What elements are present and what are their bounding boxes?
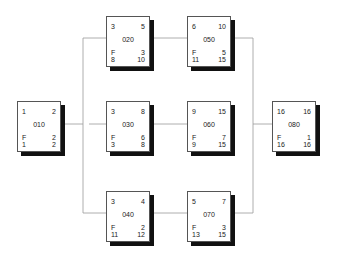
late-finish: 12 xyxy=(137,231,145,239)
node-060: 9 15 060 F 7 9 15 xyxy=(187,101,231,152)
activity-id: 050 xyxy=(188,36,230,44)
early-finish: 4 xyxy=(141,198,145,206)
activity-id: 010 xyxy=(18,121,60,129)
node-010: 1 2 010 F 2 1 2 xyxy=(17,101,61,152)
node-030: 3 8 030 F 6 3 8 xyxy=(106,101,150,152)
late-finish: 2 xyxy=(52,141,56,149)
node-080: 16 16 080 F 1 16 16 xyxy=(272,101,316,152)
network-diagram: 1 2 010 F 2 1 2 3 5 020 F 3 8 10 3 8 030… xyxy=(0,0,338,260)
early-finish: 15 xyxy=(218,108,226,116)
late-finish: 15 xyxy=(218,141,226,149)
late-start: 9 xyxy=(192,141,196,149)
early-finish: 10 xyxy=(218,23,226,31)
activity-id: 040 xyxy=(107,211,149,219)
late-start: 11 xyxy=(111,231,118,239)
late-finish: 10 xyxy=(137,56,145,64)
late-finish: 15 xyxy=(218,231,226,239)
late-start: 16 xyxy=(277,141,285,149)
late-start: 3 xyxy=(111,141,115,149)
activity-id: 060 xyxy=(188,121,230,129)
activity-id: 030 xyxy=(107,121,149,129)
early-finish: 5 xyxy=(141,23,145,31)
early-finish: 8 xyxy=(141,108,145,116)
activity-id: 020 xyxy=(107,36,149,44)
early-finish: 16 xyxy=(303,108,311,116)
early-start: 16 xyxy=(277,108,285,116)
early-finish: 7 xyxy=(222,198,226,206)
early-start: 6 xyxy=(192,23,196,31)
early-start: 5 xyxy=(192,198,196,206)
activity-id: 080 xyxy=(273,121,315,129)
early-start: 1 xyxy=(22,108,26,116)
node-050: 6 10 050 F 5 11 15 xyxy=(187,16,231,67)
node-040: 3 4 040 F 2 11 12 xyxy=(106,191,150,242)
activity-id: 070 xyxy=(188,211,230,219)
late-finish: 16 xyxy=(303,141,311,149)
early-finish: 2 xyxy=(52,108,56,116)
late-start: 8 xyxy=(111,56,115,64)
node-020: 3 5 020 F 3 8 10 xyxy=(106,16,150,67)
late-start: 11 xyxy=(192,56,199,64)
early-start: 9 xyxy=(192,108,196,116)
late-finish: 15 xyxy=(218,56,226,64)
early-start: 3 xyxy=(111,108,115,116)
late-finish: 8 xyxy=(141,141,145,149)
late-start: 1 xyxy=(22,141,26,149)
early-start: 3 xyxy=(111,198,115,206)
early-start: 3 xyxy=(111,23,115,31)
late-start: 13 xyxy=(192,231,200,239)
node-070: 5 7 070 F 3 13 15 xyxy=(187,191,231,242)
